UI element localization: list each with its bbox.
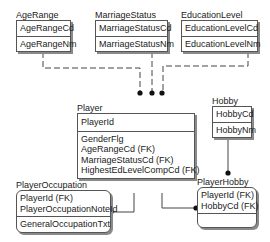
entity-label-playeroccupation: PlayerOccupation	[16, 180, 87, 190]
entity-label-educationlevel: EducationLevel	[181, 10, 243, 20]
key-section: AgeRangeCd	[17, 21, 70, 36]
entity-playeroccupation[interactable]: PlayerId (FK) PlayerOccupationNoteId Gen…	[16, 190, 111, 233]
attribute: AgeRangeCd	[20, 23, 67, 34]
rel-player-playerhobby	[162, 193, 196, 208]
key-section: PlayerId (FK) PlayerOccupationNoteId	[17, 191, 110, 216]
attribute: MarriageStatusCd	[99, 23, 164, 34]
attribute: GeneralOccupationTxt	[20, 219, 107, 230]
entity-hobby[interactable]: HobbyCd HobbyNm	[212, 106, 252, 138]
attribute-section	[198, 213, 256, 227]
key-section: MarriageStatusCd	[96, 21, 167, 36]
attribute: HobbyCd	[216, 109, 248, 120]
dot-playerhobby-hobby	[225, 170, 230, 175]
attribute: EducationLevelCd	[185, 23, 254, 34]
key-section: PlayerId (FK) HobbyCd (FK)	[198, 188, 256, 213]
attribute: PlayerOccupationNoteId	[20, 204, 107, 215]
dot-educationlevel	[159, 90, 164, 95]
attribute: AgeRangeCd (FK)	[81, 144, 191, 155]
attribute-section: HobbyNm	[213, 122, 251, 138]
entity-player[interactable]: PlayerId GenderFlg AgeRangeCd (FK) Marri…	[77, 113, 195, 179]
key-section: PlayerId	[78, 114, 194, 131]
entity-label-playerhobby: PlayerHobby	[197, 177, 249, 187]
attribute: HobbyCd (FK)	[201, 201, 253, 212]
attribute-section: MarriageStatusNm	[96, 36, 167, 52]
entity-agerange[interactable]: AgeRangeCd AgeRangeNm	[16, 20, 71, 52]
entity-educationlevel[interactable]: EducationLevelCd EducationLevelNm	[181, 20, 258, 52]
attribute: AgeRangeNm	[20, 39, 67, 50]
entity-playerhobby[interactable]: PlayerId (FK) HobbyCd (FK)	[197, 187, 257, 228]
dot-marriagestatus	[149, 90, 154, 95]
attribute-section: AgeRangeNm	[17, 36, 70, 52]
attribute: HobbyNm	[216, 125, 248, 136]
entity-label-player: Player	[77, 103, 103, 113]
attribute: MarriageStatusNm	[99, 39, 164, 50]
entity-label-hobby: Hobby	[212, 96, 238, 106]
attribute: PlayerId (FK)	[20, 193, 107, 204]
key-section: HobbyCd	[213, 107, 251, 122]
rel-agerange-player	[43, 52, 140, 91]
dot-agerange	[137, 90, 142, 95]
attribute: MarriageStatusCd (FK)	[81, 155, 191, 166]
attribute: HighestEdLevelCompCd (FK)	[81, 165, 191, 176]
attribute: EducationLevelNm	[185, 39, 254, 50]
key-section: EducationLevelCd	[182, 21, 257, 36]
attribute: PlayerId	[81, 117, 191, 128]
attribute-section: EducationLevelNm	[182, 36, 257, 52]
entity-label-marriagestatus: MarriageStatus	[95, 10, 156, 20]
rel-educationlevel-player	[163, 52, 248, 91]
attribute: PlayerId (FK)	[201, 190, 253, 201]
attribute-section: GenderFlg AgeRangeCd (FK) MarriageStatus…	[78, 131, 194, 178]
attribute-section: GeneralOccupationTxt	[17, 216, 110, 232]
entity-marriagestatus[interactable]: MarriageStatusCd MarriageStatusNm	[95, 20, 168, 52]
entity-label-agerange: AgeRange	[16, 10, 59, 20]
attribute: GenderFlg	[81, 134, 191, 145]
